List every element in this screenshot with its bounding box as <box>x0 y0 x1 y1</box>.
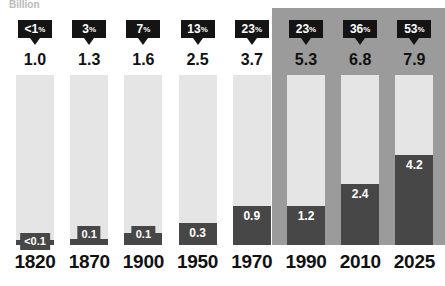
urban-percent-badge: 7% <box>126 20 160 38</box>
badge-pointer-icon <box>30 38 40 45</box>
badge-pointer-icon <box>193 38 203 45</box>
urban-percent-badge: 13% <box>181 20 215 38</box>
urban-percent-badge: 36% <box>343 20 377 38</box>
percent-sign: % <box>143 26 150 34</box>
total-population-value: 2.5 <box>186 52 208 68</box>
urban-segment-value: 0.1 <box>78 226 101 243</box>
percent-sign: % <box>201 26 208 34</box>
percent-sign: % <box>309 26 316 34</box>
bar-columns: <1%1.0<0.118203%1.30.118707%1.60.1190013… <box>0 0 445 286</box>
bar-column-1900: 7%1.60.11900 <box>116 0 170 286</box>
bar-column-1950: 13%2.50.31950 <box>171 0 225 286</box>
urban-percent-value: 23 <box>242 23 255 35</box>
bar-column-2010: 36%6.82.42010 <box>333 0 387 286</box>
stacked-bar: 4.2 <box>395 75 433 245</box>
stacked-bar: 2.4 <box>341 75 379 245</box>
stacked-bar: <0.1 <box>16 75 54 245</box>
urban-segment-value: 0.3 <box>179 227 217 239</box>
total-population-value: 1.3 <box>78 52 100 68</box>
urban-percent-value: 53 <box>404 23 417 35</box>
year-label-1820: 1820 <box>14 252 55 271</box>
urban-percent-badge: 23% <box>289 20 323 38</box>
bar-column-1990: 23%5.31.21990 <box>279 0 333 286</box>
urban-percent-value: 7 <box>136 23 143 35</box>
total-population-value: 5.3 <box>295 52 317 68</box>
total-population-value: 6.8 <box>349 52 371 68</box>
year-label-1970: 1970 <box>231 252 272 271</box>
urban-percent-value: 36 <box>350 23 363 35</box>
urban-segment: 0.3 <box>179 223 217 245</box>
urban-segment: 4.2 <box>395 155 433 245</box>
urban-percent-value: 3 <box>82 23 89 35</box>
stacked-bar: 0.3 <box>179 75 217 245</box>
stacked-bar: 0.1 <box>70 75 108 245</box>
percent-sign: % <box>38 26 45 34</box>
badge-pointer-icon <box>138 38 148 45</box>
stacked-bar: 0.9 <box>233 75 271 245</box>
percent-sign: % <box>255 26 262 34</box>
urban-percent-badge: <1% <box>18 20 52 38</box>
bar-column-1970: 23%3.70.91970 <box>225 0 279 286</box>
stacked-bar: 0.1 <box>124 75 162 245</box>
total-population-value: 1.6 <box>132 52 154 68</box>
year-label-1990: 1990 <box>285 252 326 271</box>
urban-segment: 0.9 <box>233 206 271 245</box>
badge-pointer-icon <box>409 38 419 45</box>
year-label-1950: 1950 <box>177 252 218 271</box>
unit-label: Billion <box>9 0 40 10</box>
year-label-1870: 1870 <box>69 252 110 271</box>
bar-column-1820: <1%1.0<0.11820 <box>8 0 62 286</box>
total-population-value: 3.7 <box>241 52 263 68</box>
urban-percent-value: 13 <box>187 23 200 35</box>
urban-segment-value: 2.4 <box>341 188 379 200</box>
badge-pointer-icon <box>301 38 311 45</box>
badge-pointer-icon <box>355 38 365 45</box>
urban-percent-value: <1 <box>25 23 39 35</box>
percent-sign: % <box>418 26 425 34</box>
bar-column-1870: 3%1.30.11870 <box>62 0 116 286</box>
urban-percent-badge: 53% <box>397 20 431 38</box>
badge-pointer-icon <box>84 38 94 45</box>
badge-pointer-icon <box>247 38 257 45</box>
population-urbanization-chart: Billion <1%1.0<0.118203%1.30.118707%1.60… <box>0 0 445 286</box>
stacked-bar: 1.2 <box>287 75 325 245</box>
urban-segment-value: 0.9 <box>233 210 271 222</box>
urban-segment: 1.2 <box>287 206 325 245</box>
urban-segment-value: 1.2 <box>287 210 325 222</box>
urban-segment-value: <0.1 <box>20 233 50 250</box>
bar-column-2025: 53%7.94.22025 <box>387 0 441 286</box>
total-population-value: 7.9 <box>403 52 425 68</box>
year-label-1900: 1900 <box>123 252 164 271</box>
year-label-2025: 2025 <box>394 252 435 271</box>
total-population-value: 1.0 <box>24 52 46 68</box>
urban-percent-value: 23 <box>296 23 309 35</box>
percent-sign: % <box>89 26 96 34</box>
urban-segment: 2.4 <box>341 184 379 245</box>
urban-percent-badge: 3% <box>72 20 106 38</box>
percent-sign: % <box>363 26 370 34</box>
urban-segment-value: 0.1 <box>132 226 155 243</box>
urban-segment-value: 4.2 <box>395 159 433 171</box>
year-label-2010: 2010 <box>340 252 381 271</box>
urban-percent-badge: 23% <box>235 20 269 38</box>
